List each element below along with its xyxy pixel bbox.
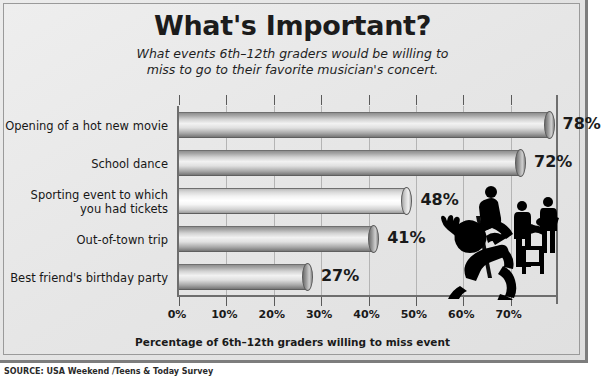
x-tick-label: 20% xyxy=(252,308,292,321)
category-label: School dance xyxy=(2,157,174,171)
category-label-line: Best friend's birthday party xyxy=(2,271,168,285)
bar-end-cap xyxy=(302,263,313,291)
x-tick-label: 30% xyxy=(299,308,339,321)
bar-value-label: 72% xyxy=(534,152,572,171)
page-subtitle: What events 6th–12th graders would be wi… xyxy=(0,46,585,78)
axis-tick xyxy=(416,95,417,105)
axis-tick xyxy=(321,297,322,306)
axis-tick xyxy=(274,297,275,306)
x-axis-title: Percentage of 6th–12th graders willing t… xyxy=(0,336,585,348)
axis-tick xyxy=(179,297,180,306)
category-label-line: Opening of a hot new movie xyxy=(2,119,168,133)
axis-tick xyxy=(226,95,227,105)
bar xyxy=(179,112,549,138)
subtitle-line-1: What events 6th–12th graders would be wi… xyxy=(0,46,585,62)
bar-value-label: 27% xyxy=(321,266,359,285)
category-label-line: School dance xyxy=(2,157,168,171)
x-tick-label: 40% xyxy=(347,308,387,321)
bar-row: 41% xyxy=(179,226,387,252)
bar-end-cap xyxy=(515,149,526,177)
bar xyxy=(179,226,373,252)
axis-tick xyxy=(463,95,464,105)
bar-row: 72% xyxy=(179,150,534,176)
category-label: Opening of a hot new movie xyxy=(2,119,174,133)
axis-tick xyxy=(274,95,275,105)
axis-tick xyxy=(369,95,370,105)
category-label-line: Out-of-town trip xyxy=(2,233,168,247)
bar-value-label: 78% xyxy=(563,114,601,133)
source-caption: SOURCE: USA Weekend /Teens & Today Surve… xyxy=(4,367,213,376)
bar xyxy=(179,264,307,290)
category-label-line: Sporting event to which xyxy=(2,188,168,202)
axis-tick xyxy=(226,297,227,306)
axis-tick xyxy=(416,297,417,306)
category-label: Out-of-town trip xyxy=(2,233,174,247)
x-tick-label: 10% xyxy=(204,308,244,321)
x-tick-label: 60% xyxy=(441,308,481,321)
axis-tick xyxy=(321,95,322,105)
rock-band-silhouette-icon xyxy=(430,182,560,300)
axis-tick xyxy=(369,297,370,306)
category-label: Sporting event to whichyou had tickets xyxy=(2,188,174,216)
x-tick-label: 70% xyxy=(489,308,529,321)
bar-end-cap xyxy=(544,111,555,139)
axis-tick xyxy=(511,95,512,105)
bar-end-cap xyxy=(368,225,379,253)
bar-end-cap xyxy=(401,187,412,215)
x-tick-label: 0% xyxy=(157,308,197,321)
bar-row: 48% xyxy=(179,188,420,214)
category-label: Best friend's birthday party xyxy=(2,271,174,285)
poster-frame: What's Important? What events 6th–12th g… xyxy=(0,0,588,363)
x-tick-label: 50% xyxy=(394,308,434,321)
bar-row: 27% xyxy=(179,264,321,290)
bar xyxy=(179,188,406,214)
axis-tick xyxy=(179,95,180,105)
bar-row: 78% xyxy=(179,112,563,138)
bar xyxy=(179,150,520,176)
page-title: What's Important? xyxy=(0,10,585,41)
subtitle-line-2: miss to go to their favorite musician's … xyxy=(0,62,585,78)
bar-value-label: 41% xyxy=(387,228,425,247)
category-label-line: you had tickets xyxy=(2,202,168,216)
